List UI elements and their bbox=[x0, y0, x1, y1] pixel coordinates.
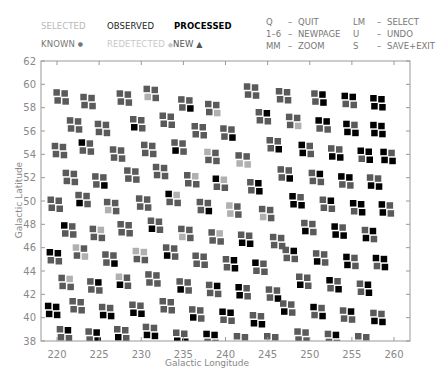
field-tile[interactable] bbox=[214, 184, 221, 191]
field-tile[interactable] bbox=[113, 208, 120, 215]
field-tile[interactable] bbox=[70, 231, 77, 238]
field-tile[interactable] bbox=[267, 207, 274, 214]
field-tile[interactable] bbox=[208, 229, 215, 236]
field-tile[interactable] bbox=[206, 208, 213, 215]
field-tile[interactable] bbox=[257, 117, 264, 124]
field-tile[interactable] bbox=[62, 98, 69, 105]
field-tile[interactable] bbox=[284, 255, 291, 262]
field-tile[interactable] bbox=[102, 251, 109, 257]
field-tile[interactable] bbox=[277, 96, 284, 103]
field-tile[interactable] bbox=[64, 178, 71, 185]
field-tile[interactable] bbox=[198, 315, 205, 322]
field-tile[interactable] bbox=[137, 303, 144, 310]
field-tile[interactable] bbox=[197, 307, 204, 314]
field-tile[interactable] bbox=[148, 218, 155, 225]
field-tile[interactable] bbox=[184, 172, 191, 179]
field-tile[interactable] bbox=[168, 299, 175, 306]
field-tile[interactable] bbox=[335, 286, 342, 293]
field-tile[interactable] bbox=[304, 275, 311, 282]
field-tile[interactable] bbox=[177, 286, 184, 293]
field-tile[interactable] bbox=[152, 333, 159, 340]
field-tile[interactable] bbox=[247, 179, 254, 186]
field-tile[interactable] bbox=[153, 164, 160, 171]
field-tile[interactable] bbox=[376, 183, 383, 190]
field-tile[interactable] bbox=[300, 150, 307, 157]
field-tile[interactable] bbox=[83, 193, 90, 200]
field-tile[interactable] bbox=[268, 215, 275, 222]
field-tile[interactable] bbox=[66, 276, 73, 283]
field-tile[interactable] bbox=[223, 256, 230, 263]
field-tile[interactable] bbox=[350, 200, 357, 207]
field-tile[interactable] bbox=[325, 331, 332, 338]
field-tile[interactable] bbox=[343, 254, 350, 261]
field-tile[interactable] bbox=[339, 181, 346, 188]
field-tile[interactable] bbox=[176, 278, 183, 285]
field-tile[interactable] bbox=[287, 175, 294, 182]
field-tile[interactable] bbox=[333, 332, 340, 339]
field-tile[interactable] bbox=[205, 200, 212, 207]
field-tile[interactable] bbox=[289, 309, 296, 316]
field-tile[interactable] bbox=[351, 255, 358, 262]
field-tile[interactable] bbox=[76, 126, 83, 133]
field-tile[interactable] bbox=[294, 328, 301, 335]
field-tile[interactable] bbox=[248, 187, 255, 194]
field-tile[interactable] bbox=[352, 130, 359, 137]
field-tile[interactable] bbox=[145, 204, 152, 211]
field-tile[interactable] bbox=[381, 157, 388, 164]
field-tile[interactable] bbox=[117, 90, 124, 97]
field-tile[interactable] bbox=[185, 180, 192, 187]
field-tile[interactable] bbox=[358, 201, 365, 208]
field-tile[interactable] bbox=[48, 197, 55, 204]
field-tile[interactable] bbox=[139, 125, 146, 132]
field-tile[interactable] bbox=[338, 173, 345, 180]
field-tile[interactable] bbox=[380, 149, 387, 156]
field-tile[interactable] bbox=[117, 282, 124, 289]
field-tile[interactable] bbox=[145, 94, 152, 101]
field-tile[interactable] bbox=[228, 318, 235, 325]
field-tile[interactable] bbox=[78, 307, 85, 314]
field-tile[interactable] bbox=[318, 305, 325, 312]
field-tile[interactable] bbox=[292, 256, 299, 263]
field-tile[interactable] bbox=[235, 341, 242, 348]
field-tile[interactable] bbox=[244, 161, 251, 168]
field-tile[interactable] bbox=[344, 129, 351, 136]
field-tile[interactable] bbox=[95, 121, 102, 128]
field-tile[interactable] bbox=[70, 306, 77, 313]
field-tile[interactable] bbox=[326, 339, 333, 346]
field-tile[interactable] bbox=[252, 84, 258, 91]
field-tile[interactable] bbox=[317, 171, 324, 178]
field-tile[interactable] bbox=[328, 145, 335, 152]
field-tile[interactable] bbox=[126, 99, 133, 106]
field-tile[interactable] bbox=[232, 265, 239, 272]
field-tile[interactable] bbox=[258, 313, 265, 320]
field-tile[interactable] bbox=[278, 235, 285, 242]
field-tile[interactable] bbox=[161, 165, 168, 172]
field-tile[interactable] bbox=[274, 287, 281, 294]
field-tile[interactable] bbox=[52, 143, 59, 150]
field-tile[interactable] bbox=[91, 234, 98, 241]
field-tile[interactable] bbox=[67, 284, 74, 291]
field-tile[interactable] bbox=[81, 245, 88, 252]
field-tile[interactable] bbox=[130, 310, 137, 317]
field-tile[interactable] bbox=[387, 202, 394, 209]
field-tile[interactable] bbox=[125, 222, 131, 229]
field-tile[interactable] bbox=[301, 220, 308, 227]
field-tile[interactable] bbox=[60, 144, 66, 151]
field-tile[interactable] bbox=[299, 142, 306, 149]
field-tile[interactable] bbox=[104, 199, 111, 206]
field-tile[interactable] bbox=[149, 143, 156, 150]
field-tile[interactable] bbox=[99, 235, 106, 242]
field-tile[interactable] bbox=[133, 176, 140, 183]
field-tile[interactable] bbox=[276, 146, 283, 153]
field-tile[interactable] bbox=[371, 103, 378, 110]
field-tile[interactable] bbox=[320, 197, 327, 204]
field-tile[interactable] bbox=[141, 249, 148, 256]
field-tile[interactable] bbox=[366, 149, 373, 156]
field-tile[interactable] bbox=[367, 157, 374, 164]
field-tile[interactable] bbox=[171, 245, 178, 252]
field-tile[interactable] bbox=[244, 83, 251, 90]
field-tile[interactable] bbox=[378, 96, 385, 103]
field-tile[interactable] bbox=[286, 167, 293, 174]
field-tile[interactable] bbox=[130, 116, 137, 123]
